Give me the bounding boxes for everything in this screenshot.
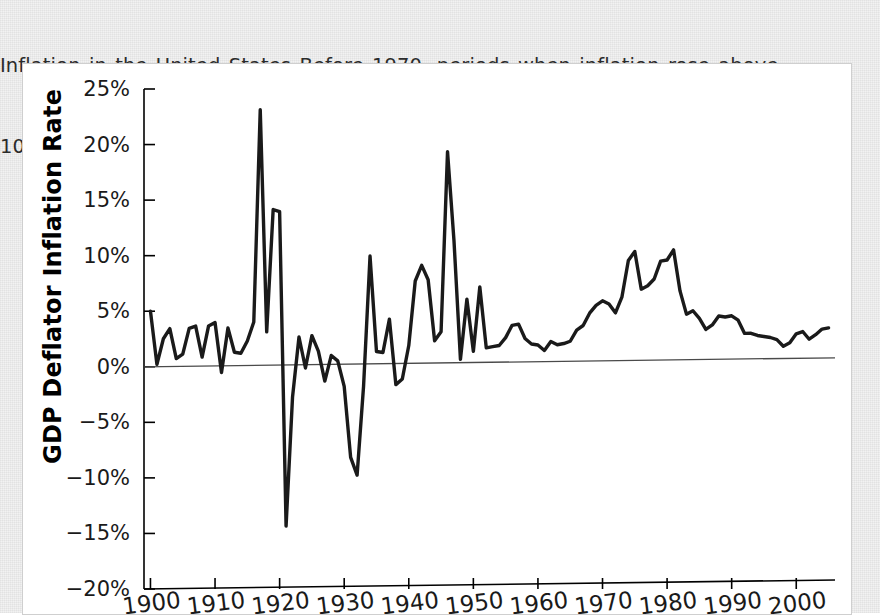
y-tick-label: 25% [83, 77, 130, 101]
zero-reference-line [144, 358, 835, 367]
x-tick-label: 1990 [702, 587, 763, 614]
y-tick-label: 0% [97, 355, 130, 379]
figure-panel: GDP Deflator Inflation Rate 25%20%15%10%… [22, 63, 852, 615]
x-tick-label: 1950 [444, 587, 505, 614]
x-tick-label: 1970 [573, 587, 634, 614]
x-tick-label: 1900 [121, 587, 182, 614]
y-tick-label: −10% [66, 466, 130, 490]
inflation-line-chart: GDP Deflator Inflation Rate 25%20%15%10%… [23, 64, 851, 614]
x-tick-label: 2000 [767, 587, 828, 614]
x-axis-tick-labels: 1900191019201930194019501960197019801990… [121, 587, 828, 614]
x-tick-label: 1940 [379, 587, 440, 614]
inflation-series-line [150, 110, 828, 526]
y-tick-label: 5% [97, 299, 130, 323]
y-axis-tick-labels: 25%20%15%10%5%0%−5%−10%−15%−20% [66, 77, 130, 601]
x-tick-label: 1980 [637, 587, 698, 614]
x-tick-label: 1930 [315, 587, 376, 614]
y-tick-label: −15% [66, 521, 130, 545]
y-tick-label: −5% [79, 410, 130, 434]
x-tick-label: 1960 [508, 587, 569, 614]
x-tick-label: 1920 [250, 587, 311, 614]
y-tick-label: 10% [83, 244, 130, 268]
x-tick-label: 1910 [185, 587, 246, 614]
y-tick-label: 15% [83, 188, 130, 212]
y-axis-label: GDP Deflator Inflation Rate [39, 89, 67, 464]
y-tick-label: 20% [83, 133, 130, 157]
